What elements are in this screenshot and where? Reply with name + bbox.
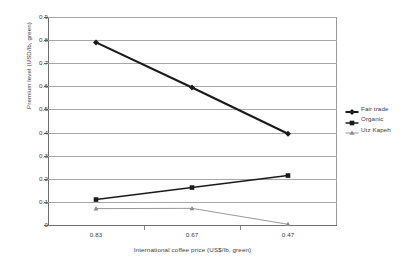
x-tick-mark [144,226,145,230]
gridline [48,133,337,134]
y-tick-label: 0.9 [8,13,48,20]
x-tick-label: 0.83 [66,231,126,238]
legend-label: Utz Kapeh [359,126,391,133]
y-tick-label: 0.1 [8,198,48,205]
y-tick-label: 0.3 [8,152,48,159]
gridline [48,202,337,203]
y-tick-label: 0.8 [8,36,48,43]
legend-marker-triangle-icon [345,124,359,134]
y-tick-label: 0.6 [8,82,48,89]
x-axis-title: International coffee price (US$/lb, gree… [48,246,337,253]
x-tick-label: 0.67 [162,231,222,238]
plot-area [48,17,337,226]
gridline [48,109,337,110]
legend-marker-square-icon [345,114,359,124]
plot-right-border [336,17,337,226]
chart-figure: Premium level (USD/lb, green) 0.90.80.70… [0,0,412,267]
legend-entry-utz-kapeh[interactable]: Utz Kapeh [345,124,411,135]
y-tick-label: 0.7 [8,59,48,66]
gridline [48,17,337,18]
legend-marker-diamond-icon [345,103,359,113]
gridline [48,86,337,87]
y-tick-label: 0.2 [8,175,48,182]
y-tick-label: 0 [8,221,48,228]
x-tick-label: 0.47 [258,231,318,238]
x-axis-line [48,225,337,226]
legend-entry-organic[interactable]: Organic [345,114,411,125]
gridline [48,40,337,41]
gridline [48,179,337,180]
y-tick-label: 0.5 [8,105,48,112]
legend-label: Organic [359,115,383,122]
chart-legend: Fair tradeOrganicUtz Kapeh [345,103,411,135]
gridline [48,63,337,64]
y-axis-line [48,17,49,226]
y-axis-ticks: 0.90.80.70.60.50.40.30.20.10 [0,0,48,267]
legend-entry-fair-trade[interactable]: Fair trade [345,103,411,114]
x-tick-mark [240,226,241,230]
gridline [48,156,337,157]
legend-label: Fair trade [359,105,388,112]
y-tick-label: 0.4 [8,129,48,136]
